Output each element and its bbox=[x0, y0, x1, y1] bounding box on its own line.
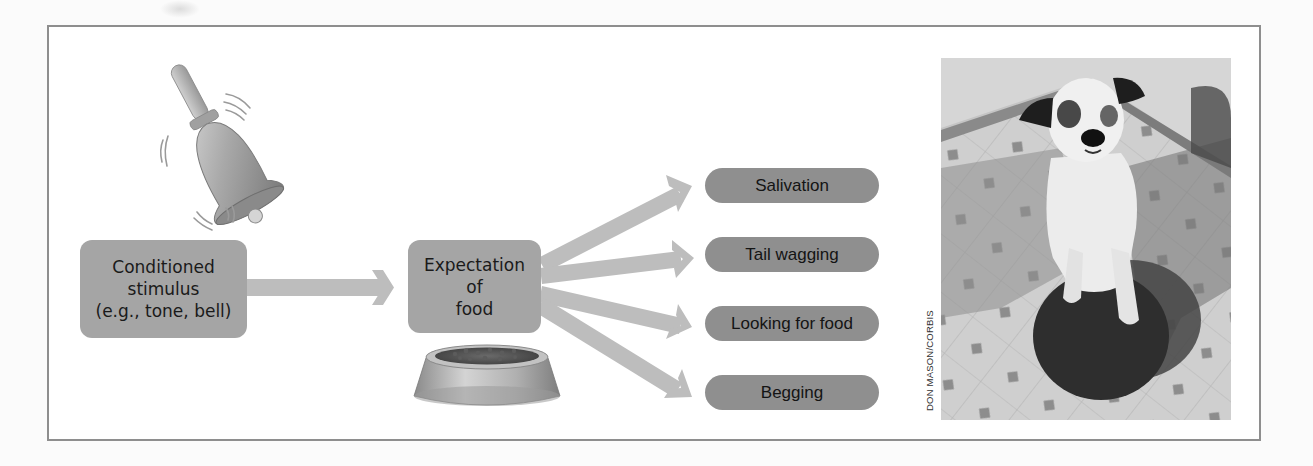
expectation-of-food-label: Expectation of food bbox=[424, 254, 525, 320]
response-label: Looking for food bbox=[731, 314, 853, 334]
conditioned-stimulus-label: Conditioned stimulus (e.g., tone, bell) bbox=[96, 256, 232, 322]
response-label: Tail wagging bbox=[745, 245, 839, 265]
response-salivation: Salivation bbox=[705, 168, 879, 203]
dog-photo-illustration bbox=[941, 58, 1231, 420]
conditioned-stimulus-box: Conditioned stimulus (e.g., tone, bell) bbox=[80, 240, 247, 338]
response-looking-for-food: Looking for food bbox=[705, 306, 879, 341]
response-tail-wagging: Tail wagging bbox=[705, 237, 879, 272]
dog-photo bbox=[941, 58, 1231, 420]
fanout-arrows bbox=[535, 175, 694, 398]
arrow-stimulus-to-expectation bbox=[246, 270, 394, 305]
food-bowl-icon bbox=[414, 345, 560, 406]
response-label: Begging bbox=[761, 383, 823, 403]
response-label: Salivation bbox=[755, 176, 829, 196]
response-begging: Begging bbox=[705, 375, 879, 410]
expectation-of-food-box: Expectation of food bbox=[408, 240, 541, 333]
photo-credit: DON MASON/CORBIS bbox=[924, 310, 935, 411]
bell-icon bbox=[142, 48, 293, 240]
